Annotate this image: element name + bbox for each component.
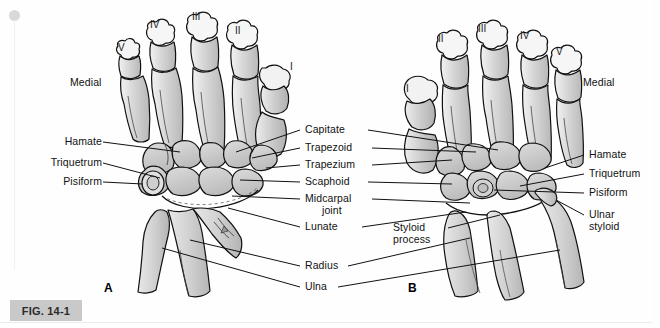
digit-label-v-b: V [556, 46, 563, 57]
figure-page: V IV III II I Medial Hamate Triquetrum P… [0, 0, 660, 328]
label-ulna: Ulna [305, 281, 327, 293]
label-lunate: Lunate [305, 221, 338, 233]
digit-label-iv-a: IV [150, 19, 159, 30]
label-trapezium: Trapezium [305, 159, 355, 171]
digit-i-phalanx-head-b [404, 76, 437, 105]
digit-v-phalanx-base [119, 56, 141, 79]
label-capitate: Capitate [305, 124, 345, 136]
digit-ii-phalanx-head [227, 20, 258, 49]
label-styloid: Styloid [393, 222, 425, 234]
metacarpal-i-b [405, 129, 439, 173]
figure-number-text: FIG. 14-1 [22, 305, 70, 317]
leader-scaphoid-b [368, 182, 452, 184]
capitate-b [489, 142, 521, 170]
leader-pisiform-a [103, 182, 143, 184]
digit-label-iii-a: III [192, 11, 200, 22]
panel-a-skeleton [117, 12, 291, 297]
label-ulnar-styloid-b: styloid [589, 221, 619, 233]
label-ulnar-b: Ulnar [589, 209, 615, 221]
digit-iv-phalanx-base [150, 42, 176, 71]
label-hamate-b: Hamate [589, 149, 626, 161]
label-pisiform-b: Pisiform [589, 187, 628, 199]
digit-i-phalanx-base [261, 86, 289, 114]
figure-number-tag: FIG. 14-1 [10, 300, 82, 321]
ulnar-styloid-b [535, 188, 557, 206]
label-pisiform-a: Pisiform [20, 176, 102, 188]
label-midcarpal-joint: joint [322, 205, 342, 217]
digit-label-ii-b: II [438, 33, 444, 44]
label-scaphoid: Scaphoid [305, 176, 350, 188]
digit-label-v-a: V [118, 42, 125, 53]
pisiform-a-inner [147, 176, 159, 190]
digit-iii-phalanx-base [191, 37, 219, 71]
capitate-a [172, 141, 201, 168]
digit-ii-phalanx-base-b [441, 55, 469, 88]
label-midcarpal: Midcarpal [305, 193, 351, 205]
carpal-a-extra [232, 169, 263, 196]
digit-iv-phalanx-base-b [521, 55, 549, 88]
digit-iii-phalanx-base-b [481, 45, 509, 79]
label-styloid-process: process [393, 234, 430, 246]
radius-b-shaft [487, 211, 524, 300]
digit-i-phalanx-base-b [405, 99, 435, 130]
scaphoid-b [441, 173, 470, 200]
label-triquetrum-a: Triquetrum [20, 157, 102, 169]
lunate-a [166, 167, 201, 196]
panel-b-letter: B [408, 281, 417, 295]
radius-b [444, 211, 478, 297]
label-radius: Radius [305, 260, 338, 272]
digit-ii-phalanx-base [231, 45, 259, 79]
digit-v-phalanx-base-b [555, 70, 582, 102]
ulna-a [138, 210, 169, 293]
digit-label-iii-b: III [478, 23, 486, 34]
pisiform-b-inner [478, 184, 488, 193]
label-trapezoid: Trapezoid [305, 142, 352, 154]
leader-lunate-a [228, 208, 300, 227]
page-right-edge [652, 0, 660, 328]
leader-midcarpal-a [232, 196, 300, 199]
panel-b-skeleton [404, 20, 584, 300]
digit-label-i-a: I [290, 61, 293, 72]
digit-label-ii-a: II [235, 25, 241, 36]
label-triquetrum-b: Triquetrum [589, 168, 640, 180]
page-bottom-rule [0, 322, 660, 323]
digit-label-i-b: I [406, 83, 409, 94]
label-hamate-a: Hamate [20, 136, 102, 148]
digit-label-iv-b: IV [520, 30, 529, 41]
scaphoid-a [199, 167, 234, 196]
medial-label-b: Medial [583, 77, 615, 89]
panel-a-letter: A [104, 281, 113, 295]
medial-label-a: Medial [70, 77, 102, 89]
